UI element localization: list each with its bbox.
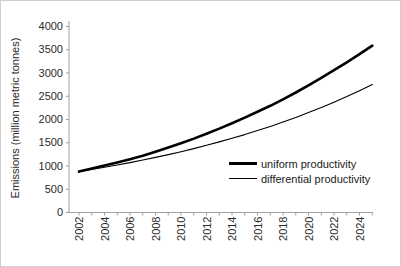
y-tick-label: 3500 <box>39 43 63 55</box>
x-tick-label: 2014 <box>226 217 238 241</box>
y-tick-label: 1000 <box>39 160 63 172</box>
x-tick-label: 2022 <box>328 217 340 241</box>
legend-thick-line-swatch <box>229 162 257 165</box>
x-tick-label: 2006 <box>124 217 136 241</box>
y-tick-label: 4000 <box>39 20 63 32</box>
y-tick-label: 0 <box>57 206 63 218</box>
y-tick-label: 2500 <box>39 90 63 102</box>
y-tick-label: 1500 <box>39 136 63 148</box>
legend-item-differential-productivity: differential productivity <box>229 171 370 186</box>
x-tick-label: 2004 <box>99 217 111 241</box>
legend-thin-line-swatch <box>229 178 257 179</box>
chart-svg: 0500100015002000250030003500400020022004… <box>1 1 401 267</box>
legend-label-uniform-productivity: uniform productivity <box>261 158 356 170</box>
x-tick-label: 2016 <box>252 217 264 241</box>
legend: uniform productivity differential produc… <box>229 156 370 186</box>
chart-frame: Emissions (million metric tonnes) 050010… <box>0 0 401 267</box>
x-tick-label: 2020 <box>303 217 315 241</box>
x-tick-label: 2018 <box>277 217 289 241</box>
y-tick-label: 2000 <box>39 113 63 125</box>
legend-item-uniform-productivity: uniform productivity <box>229 156 370 171</box>
x-tick-label: 2012 <box>201 217 213 241</box>
x-tick-label: 2002 <box>73 217 85 241</box>
x-tick-label: 2008 <box>150 217 162 241</box>
legend-label-differential-productivity: differential productivity <box>261 173 370 185</box>
series-line-0 <box>79 46 372 172</box>
y-tick-label: 500 <box>45 183 63 195</box>
x-tick-label: 2024 <box>354 217 366 241</box>
y-tick-label: 3000 <box>39 67 63 79</box>
x-tick-label: 2010 <box>175 217 187 241</box>
